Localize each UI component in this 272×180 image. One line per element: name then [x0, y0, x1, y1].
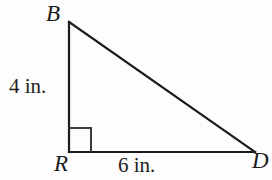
vertex-label-r: R	[54, 152, 68, 175]
side-length-label-rd: 6 in.	[118, 155, 155, 176]
vertex-label-b: B	[46, 2, 60, 25]
side-length-label-br: 4 in.	[9, 76, 46, 97]
right-angle-icon	[69, 128, 91, 152]
vertex-label-d: D	[252, 149, 269, 172]
geometry-figure: B R D 4 in. 6 in.	[0, 0, 272, 180]
side-bd-line	[69, 22, 255, 152]
